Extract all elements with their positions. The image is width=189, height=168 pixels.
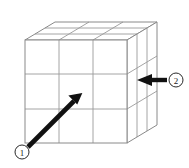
callout-1-label: 1 — [20, 148, 25, 158]
callout-2-label: 2 — [174, 76, 179, 86]
cube-front-face — [25, 40, 127, 143]
figure-container: 1 2 — [0, 0, 189, 168]
callout-marker-1: 1 — [15, 145, 29, 159]
front-face-fill — [25, 40, 127, 143]
right-face-fill — [127, 22, 157, 143]
callout-marker-2: 2 — [169, 73, 183, 87]
cube-right-face — [127, 22, 157, 143]
cube-diagram: 1 2 — [0, 0, 189, 168]
